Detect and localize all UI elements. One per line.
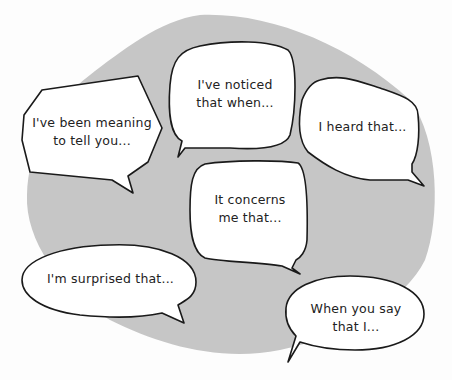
- bubble-text-concerns: It concerns me that...: [195, 191, 305, 227]
- bubble-text-heard: I heard that...: [310, 118, 415, 136]
- speech-bubbles-illustration: I've been meaning to tell you... I've no…: [0, 0, 452, 380]
- bubble-text-been-meaning: I've been meaning to tell you...: [32, 114, 152, 150]
- bubble-text-noticed: I've noticed that when...: [180, 76, 290, 112]
- bubble-text-when-you-say: When you say that I...: [296, 300, 416, 336]
- bubble-text-surprised: I'm surprised that...: [28, 270, 193, 288]
